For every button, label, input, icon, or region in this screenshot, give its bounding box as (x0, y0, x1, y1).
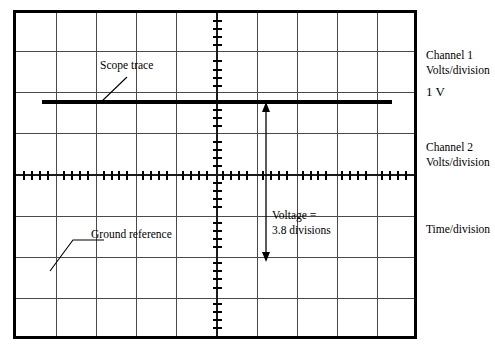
minor-tick-horizontal (23, 171, 25, 180)
voltage-measurement-label: Voltage = 3.8 divisions (272, 208, 331, 237)
minor-tick-vertical (213, 230, 222, 232)
minor-tick-vertical (213, 36, 222, 38)
minor-tick-vertical (213, 262, 222, 264)
gridline-horizontal-5 (16, 216, 414, 217)
minor-tick-horizontal (182, 171, 184, 180)
minor-tick-horizontal (39, 171, 41, 180)
minor-tick-horizontal (405, 171, 407, 180)
minor-tick-vertical (213, 125, 222, 127)
time-division-label: Time/division (426, 222, 490, 237)
minor-tick-horizontal (357, 171, 359, 180)
ground-reference-label: Ground reference (91, 227, 172, 242)
minor-tick-vertical (213, 311, 222, 313)
minor-tick-horizontal (126, 171, 128, 180)
minor-tick-horizontal (349, 171, 351, 180)
minor-tick-horizontal (31, 171, 33, 180)
minor-tick-vertical (213, 319, 222, 321)
minor-tick-vertical (213, 60, 222, 62)
minor-tick-vertical (213, 222, 222, 224)
minor-tick-horizontal (63, 171, 65, 180)
minor-tick-horizontal (381, 171, 383, 180)
minor-tick-horizontal (190, 171, 192, 180)
minor-tick-horizontal (365, 171, 367, 180)
minor-tick-horizontal (166, 171, 168, 180)
channel1-label-line2: Volts/division (426, 63, 490, 78)
minor-tick-vertical (213, 270, 222, 272)
minor-tick-horizontal (246, 171, 248, 180)
channel2-label-line1: Channel 2 (426, 140, 490, 155)
minor-tick-vertical (213, 278, 222, 280)
centre-horizontal-axis (16, 174, 414, 176)
minor-tick-vertical (213, 20, 222, 22)
channel2-label: Channel 2 Volts/division (426, 140, 490, 171)
minor-tick-horizontal (310, 171, 312, 180)
minor-tick-vertical (213, 238, 222, 240)
minor-tick-horizontal (317, 171, 319, 180)
minor-tick-horizontal (278, 171, 280, 180)
minor-tick-horizontal (206, 171, 208, 180)
minor-tick-vertical (213, 117, 222, 119)
gridline-horizontal-3 (16, 133, 414, 134)
minor-tick-horizontal (198, 171, 200, 180)
channel1-label-line1: Channel 1 (426, 48, 490, 63)
minor-tick-vertical (213, 165, 222, 167)
minor-tick-vertical (213, 287, 222, 289)
minor-tick-vertical (213, 327, 222, 329)
minor-tick-vertical (213, 303, 222, 305)
minor-tick-vertical (213, 157, 222, 159)
voltage-label-line1: Voltage = (272, 208, 331, 223)
minor-tick-vertical (213, 44, 222, 46)
minor-tick-vertical (213, 182, 222, 184)
minor-tick-vertical (213, 85, 222, 87)
minor-tick-horizontal (302, 171, 304, 180)
scope-trace-label: Scope trace (100, 58, 153, 73)
minor-tick-horizontal (397, 171, 399, 180)
minor-tick-horizontal (158, 171, 160, 180)
scope-trace-leader-line (96, 75, 131, 105)
channel1-volts-value: 1 V (426, 83, 445, 100)
minor-tick-vertical (213, 198, 222, 200)
minor-tick-horizontal (341, 171, 343, 180)
minor-tick-horizontal (150, 171, 152, 180)
minor-tick-horizontal (47, 171, 49, 180)
gridline-horizontal-2 (16, 92, 414, 93)
minor-tick-vertical (213, 149, 222, 151)
minor-tick-vertical (213, 109, 222, 111)
minor-tick-vertical (213, 246, 222, 248)
minor-tick-horizontal (238, 171, 240, 180)
minor-tick-vertical (213, 206, 222, 208)
minor-tick-horizontal (111, 171, 113, 180)
minor-tick-vertical (213, 190, 222, 192)
minor-tick-vertical (213, 141, 222, 143)
gridline-horizontal-7 (16, 298, 414, 299)
minor-tick-horizontal (222, 171, 224, 180)
scope-screen (13, 10, 417, 339)
minor-tick-vertical (213, 28, 222, 30)
minor-tick-horizontal (230, 171, 232, 180)
scope-trace-line (42, 100, 392, 104)
minor-tick-horizontal (87, 171, 89, 180)
channel2-label-line2: Volts/division (426, 155, 490, 170)
minor-tick-horizontal (389, 171, 391, 180)
minor-tick-horizontal (142, 171, 144, 180)
channel1-label: Channel 1 Volts/division (426, 48, 490, 79)
minor-tick-horizontal (286, 171, 288, 180)
voltage-measurement-arrow (259, 101, 273, 263)
minor-tick-horizontal (325, 171, 327, 180)
minor-tick-horizontal (71, 171, 73, 180)
voltage-label-line2: 3.8 divisions (272, 223, 331, 238)
oscilloscope-figure: Scope trace Ground reference Voltage = 3… (0, 0, 495, 352)
minor-tick-vertical (213, 69, 222, 71)
minor-tick-horizontal (79, 171, 81, 180)
minor-tick-vertical (213, 77, 222, 79)
minor-tick-horizontal (118, 171, 120, 180)
minor-tick-horizontal (103, 171, 105, 180)
gridline-horizontal-1 (16, 51, 414, 52)
